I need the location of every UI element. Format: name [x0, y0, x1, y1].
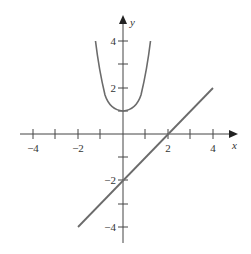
- y-tick-label: 2: [111, 82, 117, 94]
- y-tick-label: 4: [111, 35, 117, 47]
- x-axis-arrow-icon: [229, 130, 238, 138]
- x-tick-label: 2: [165, 142, 171, 154]
- y-axis-label: y: [129, 16, 135, 28]
- x-tick-label: 4: [210, 142, 216, 154]
- y-tick-label: −2: [104, 174, 116, 186]
- y-tick-label: −4: [104, 221, 116, 233]
- x-axis-label: x: [231, 139, 237, 151]
- x-tick-label: −4: [27, 142, 39, 154]
- line-curve: [78, 88, 213, 227]
- y-axis-arrow-icon: [119, 15, 127, 24]
- x-tick-label: −2: [72, 142, 84, 154]
- chart: −4 −2 2 4 4 2 −2 −4 x y: [0, 0, 251, 254]
